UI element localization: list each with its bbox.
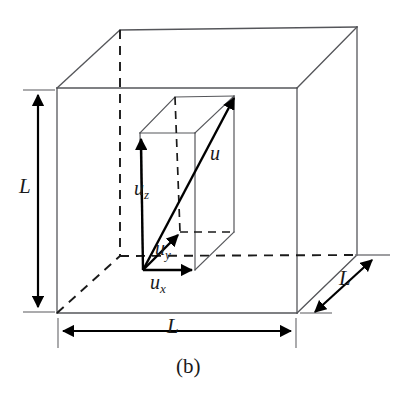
vector-label-uy-subscript: y — [165, 247, 171, 262]
vector-label-uy: uy — [155, 238, 171, 258]
dimension-label-depth: L — [339, 268, 351, 289]
vector-label-ux-subscript: x — [160, 281, 166, 296]
dimension-label-height: L — [19, 176, 31, 197]
outer-hidden-bottom-left-depth — [57, 256, 120, 313]
outer-edge-back-top — [120, 27, 357, 30]
inner-edge-bottom-right-depth — [195, 232, 234, 270]
vector-label-uz: uz — [134, 178, 149, 198]
dimension-height — [23, 90, 55, 312]
vector-label-ux-base: u — [150, 271, 160, 293]
inner-edge-top-right-depth — [195, 96, 234, 133]
vector-label-u: u — [210, 143, 220, 163]
outer-edge-top-left-depth — [57, 30, 120, 88]
figure-caption: (b) — [176, 354, 201, 379]
inner-hidden-back-left-vertical — [175, 97, 180, 232]
inner-edge-back-top — [175, 96, 234, 97]
dimension-label-width: L — [167, 316, 179, 337]
vector-label-uz-subscript: z — [144, 187, 149, 202]
figure-container: L L L u uz uy ux (b) — [0, 0, 403, 394]
vector-label-uy-base: u — [155, 237, 165, 259]
outer-edge-top-right-depth — [297, 27, 357, 88]
vector-label-uz-base: u — [134, 177, 144, 199]
vector-uz — [141, 139, 143, 270]
vector-label-u-base: u — [210, 142, 220, 164]
inner-edge-top-left-depth — [140, 97, 175, 133]
diagram-canvas — [0, 0, 403, 394]
outer-cube-solid-edges — [57, 27, 357, 313]
vector-label-ux: ux — [150, 272, 166, 292]
